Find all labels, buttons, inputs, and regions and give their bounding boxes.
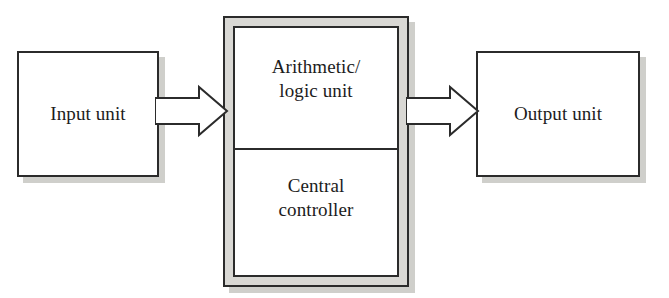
cpu-inner-box: Arithmetic/ logic unit Central controlle… [233, 26, 399, 277]
cpu-frame: Arithmetic/ logic unit Central controlle… [223, 16, 409, 287]
input-unit-box: Input unit [17, 51, 159, 177]
output-unit-box: Output unit [476, 51, 640, 177]
central-controller-label: Central controller [279, 174, 354, 222]
arrow-input-to-cpu [155, 84, 229, 138]
arrow-right-icon [406, 84, 480, 138]
arithmetic-logic-unit-label: Arithmetic/ logic unit [272, 55, 361, 103]
diagram-canvas: Input unit Arithmetic/ logic unit Centra… [0, 0, 669, 298]
arrow-right-icon [155, 84, 229, 138]
arithmetic-logic-unit-cell: Arithmetic/ logic unit [235, 28, 397, 150]
input-unit-label: Input unit [50, 102, 125, 126]
arrow-cpu-to-output [406, 84, 480, 138]
output-unit-label: Output unit [514, 102, 602, 126]
central-controller-cell: Central controller [235, 150, 397, 275]
